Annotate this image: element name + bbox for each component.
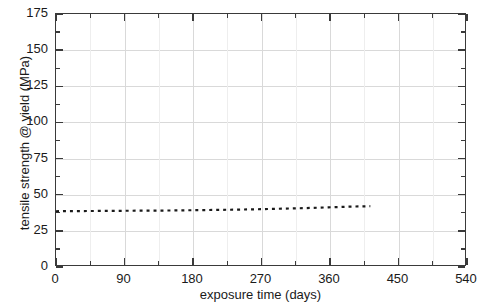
- data-series-line: [56, 206, 370, 211]
- x-axis-label: exposure time (days): [55, 287, 466, 303]
- y-tick-major: [56, 230, 63, 231]
- y-tick-minor: [56, 104, 60, 105]
- x-tick-minor: [90, 261, 91, 265]
- gridline-vertical: [193, 14, 194, 265]
- x-tick-major: [329, 258, 330, 265]
- y-tick-major: [56, 13, 63, 14]
- x-tick-major: [261, 14, 262, 21]
- x-tick-label: 270: [241, 272, 281, 286]
- gridline-vertical-minor: [159, 14, 160, 265]
- y-tick-major: [56, 86, 63, 87]
- x-tick-major: [192, 14, 193, 21]
- gridline-horizontal: [56, 195, 465, 196]
- y-tick-label: 150: [8, 42, 48, 56]
- y-tick-major: [56, 122, 63, 123]
- gridline-vertical-minor: [227, 14, 228, 265]
- y-tick-minor: [461, 31, 465, 32]
- y-tick-major: [458, 230, 465, 231]
- y-tick-minor: [461, 68, 465, 69]
- y-tick-minor: [461, 212, 465, 213]
- x-tick-minor: [90, 14, 91, 18]
- x-tick-major: [55, 14, 56, 21]
- x-tick-minor: [432, 14, 433, 18]
- x-tick-label: 90: [104, 272, 144, 286]
- data-series-layer: [56, 14, 465, 265]
- x-tick-major: [329, 14, 330, 21]
- x-tick-minor: [158, 261, 159, 265]
- gridline-vertical: [262, 14, 263, 265]
- gridline-horizontal: [56, 159, 465, 160]
- gridline-vertical: [125, 14, 126, 265]
- x-tick-minor: [364, 14, 365, 18]
- x-tick-major: [466, 14, 467, 21]
- x-tick-minor: [432, 261, 433, 265]
- x-tick-minor: [227, 14, 228, 18]
- y-tick-major: [56, 49, 63, 50]
- y-tick-major: [458, 266, 465, 267]
- gridline-vertical: [399, 14, 400, 265]
- y-tick-minor: [461, 104, 465, 105]
- x-tick-minor: [227, 261, 228, 265]
- gridline-vertical: [330, 14, 331, 265]
- gridline-horizontal: [56, 50, 465, 51]
- x-tick-major: [192, 258, 193, 265]
- x-tick-major: [261, 258, 262, 265]
- chart-figure: tensile strength @ yield (MPa) exposure …: [0, 0, 480, 308]
- y-tick-minor: [461, 176, 465, 177]
- x-tick-major: [124, 14, 125, 21]
- y-tick-minor: [56, 248, 60, 249]
- x-tick-minor: [158, 14, 159, 18]
- y-tick-label: 125: [8, 78, 48, 92]
- gridline-vertical-minor: [433, 14, 434, 265]
- y-tick-major: [56, 266, 63, 267]
- y-tick-major: [458, 13, 465, 14]
- y-tick-label: 50: [8, 187, 48, 201]
- y-tick-label: 0: [8, 259, 48, 273]
- y-tick-major: [458, 158, 465, 159]
- x-tick-label: 180: [172, 272, 212, 286]
- x-tick-major: [398, 14, 399, 21]
- y-tick-label: 175: [8, 6, 48, 20]
- y-tick-minor: [56, 212, 60, 213]
- y-tick-major: [458, 122, 465, 123]
- y-tick-minor: [56, 176, 60, 177]
- y-tick-minor: [461, 248, 465, 249]
- x-tick-minor: [295, 261, 296, 265]
- y-tick-label: 25: [8, 223, 48, 237]
- x-tick-label: 360: [309, 272, 349, 286]
- y-tick-major: [458, 194, 465, 195]
- x-tick-major: [398, 258, 399, 265]
- gridline-horizontal: [56, 122, 465, 123]
- y-tick-major: [56, 194, 63, 195]
- gridline-vertical-minor: [90, 14, 91, 265]
- plot-area: [55, 13, 466, 266]
- gridline-horizontal: [56, 86, 465, 87]
- x-tick-minor: [364, 261, 365, 265]
- x-tick-label: 540: [446, 272, 480, 286]
- gridline-vertical-minor: [364, 14, 365, 265]
- x-tick-label: 0: [35, 272, 75, 286]
- y-tick-major: [458, 49, 465, 50]
- y-tick-minor: [56, 140, 60, 141]
- y-tick-major: [458, 86, 465, 87]
- gridline-horizontal: [56, 231, 465, 232]
- y-tick-minor: [56, 68, 60, 69]
- y-tick-minor: [56, 31, 60, 32]
- y-tick-label: 75: [8, 151, 48, 165]
- x-tick-major: [55, 258, 56, 265]
- x-tick-major: [466, 258, 467, 265]
- x-tick-minor: [295, 14, 296, 18]
- x-tick-major: [124, 258, 125, 265]
- x-tick-label: 450: [378, 272, 418, 286]
- gridline-vertical-minor: [296, 14, 297, 265]
- y-tick-minor: [461, 140, 465, 141]
- y-tick-label: 100: [8, 114, 48, 128]
- y-tick-major: [56, 158, 63, 159]
